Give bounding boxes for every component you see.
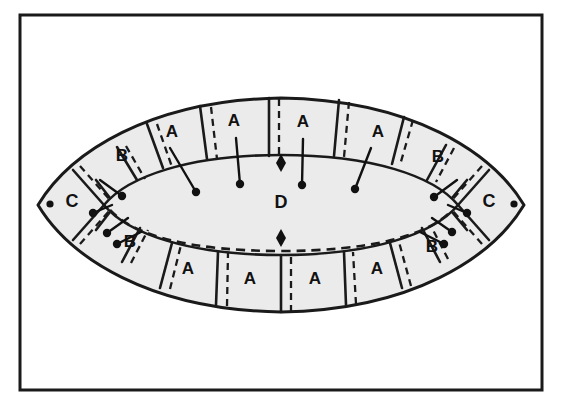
pin-head-dot — [463, 209, 471, 217]
segment-label-top-a-2: A — [228, 111, 240, 130]
segment-label-tip-c-left: C — [66, 191, 79, 211]
pin-head-dot — [113, 240, 121, 248]
pin-head-dot — [430, 193, 438, 201]
segment-label-bot-a-2: A — [244, 269, 256, 288]
tip-dot-left — [46, 200, 53, 207]
segment-label-bot-a-3: A — [309, 269, 321, 288]
segment-label-tip-c-right: C — [483, 191, 496, 211]
pin-head-dot — [89, 209, 97, 217]
segment-label-top-b-right: B — [432, 147, 444, 166]
segment-label-top-a-4: A — [372, 122, 384, 141]
pin-stem — [302, 139, 303, 185]
segment-label-center-d: D — [275, 192, 288, 212]
segment-label-top-a-1: A — [166, 122, 178, 141]
segment-label-bot-b-right: B — [426, 237, 438, 256]
segment-label-bot-b-left: B — [124, 232, 136, 251]
lens-incision-diagram: BAAAABCDCBAAAAB — [0, 0, 565, 405]
tip-dot-right — [510, 200, 517, 207]
pin-head-dot — [103, 229, 111, 237]
segment-label-top-b-left: B — [116, 146, 128, 165]
pin-head-dot — [236, 180, 244, 188]
pin-head-dot — [118, 192, 126, 200]
segment-label-bot-a-4: A — [371, 259, 383, 278]
pin-head-dot — [192, 188, 200, 196]
figure-root: BAAAABCDCBAAAAB — [0, 0, 565, 405]
pin-head-dot — [440, 240, 448, 248]
pin-head-dot — [351, 185, 359, 193]
pin-head-dot — [298, 181, 306, 189]
segment-label-top-a-3: A — [297, 112, 309, 131]
pin-head-dot — [448, 228, 456, 236]
segment-label-bot-a-1: A — [182, 259, 194, 278]
